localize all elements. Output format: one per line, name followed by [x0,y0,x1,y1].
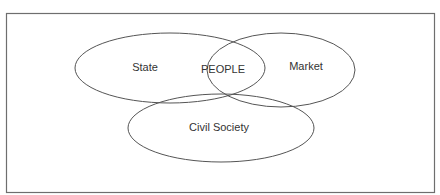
civil-society-label: Civil Society [189,121,249,133]
venn-diagram: State Market Civil Society PEOPLE [0,0,440,195]
state-label: State [132,61,158,73]
market-label: Market [289,60,323,72]
diagram-frame [7,14,435,193]
people-label: PEOPLE [201,63,245,75]
